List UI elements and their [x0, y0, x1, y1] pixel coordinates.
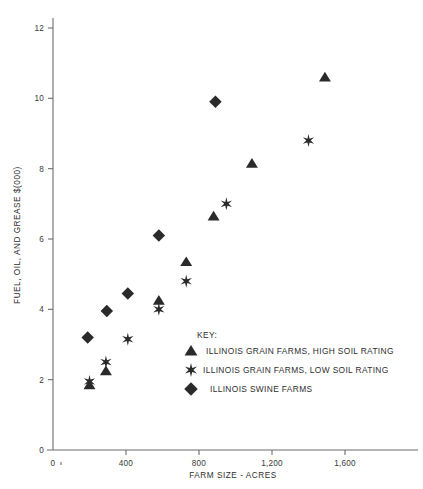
x-tick-label: 400: [119, 459, 134, 468]
data-point: [81, 331, 93, 343]
data-point: [246, 158, 258, 168]
data-point: [303, 134, 314, 147]
x-axis-title: FARM SIZE - ACRES: [189, 471, 277, 480]
data-point: [101, 305, 113, 317]
data-point: [180, 256, 192, 266]
data-point: [181, 275, 192, 288]
legend-label: ILLINOIS GRAIN FARMS, LOW SOIL RATING: [203, 365, 389, 375]
y-tick-label: 4: [39, 305, 44, 314]
x-tick-label: 1,600: [334, 459, 356, 468]
x-tick-label: 0: [51, 459, 56, 468]
legend-label: ILLINOIS SWINE FARMS: [210, 384, 312, 394]
y-tick-label: 0: [39, 446, 44, 455]
data-point: [122, 333, 133, 346]
y-axis-title: FUEL, OIL, AND GREASE $(000): [13, 166, 22, 304]
series-diamond: [81, 96, 221, 344]
plot-canvas: 02468101204008001,2001,600 KEY:ILLINOIS …: [0, 0, 423, 489]
tick-layer: [48, 28, 345, 465]
y-tick-label: 12: [34, 24, 44, 33]
y-tick-label: 8: [39, 165, 44, 174]
data-point: [100, 356, 111, 369]
scatter-chart: 02468101204008001,2001,600 KEY:ILLINOIS …: [0, 0, 423, 489]
y-tick-label: 2: [39, 376, 44, 385]
legend-marker-diamond: [184, 382, 197, 395]
legend-marker-asterisk: [185, 363, 197, 377]
data-point: [209, 96, 221, 108]
legend: KEY:ILLINOIS GRAIN FARMS, HIGH SOIL RATI…: [184, 330, 394, 396]
y-tick-label: 6: [39, 235, 44, 244]
data-point: [319, 72, 331, 82]
x-tick-label: 1,200: [261, 459, 283, 468]
data-point: [153, 229, 165, 241]
data-point: [208, 211, 220, 221]
x-tick-label: 800: [192, 459, 207, 468]
tick-label-layer: 02468101204008001,2001,600: [34, 24, 356, 468]
legend-label: ILLINOIS GRAIN FARMS, HIGH SOIL RATING: [206, 346, 394, 356]
legend-marker-triangle: [185, 345, 198, 355]
series-triangle: [84, 72, 331, 389]
y-tick-label: 10: [34, 94, 44, 103]
legend-title: KEY:: [197, 330, 217, 340]
data-point: [221, 197, 232, 210]
data-point: [122, 287, 134, 299]
data-point-layer: [81, 72, 330, 389]
